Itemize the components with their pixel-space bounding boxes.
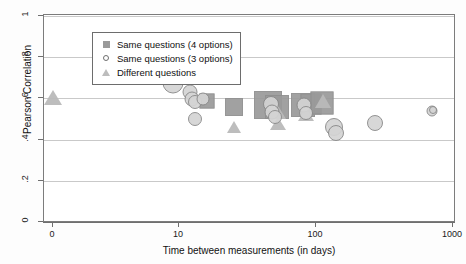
gridline	[44, 98, 454, 99]
legend-item-0: Same questions (4 options)	[99, 37, 233, 51]
y-tick-mark	[38, 221, 43, 222]
y-tick-mark	[38, 139, 43, 140]
legend-label: Same questions (3 options)	[117, 53, 233, 64]
triangle-data-point	[315, 94, 331, 108]
circle-data-point	[268, 110, 282, 124]
plot-area: Same questions (4 options) Same question…	[43, 14, 455, 222]
x-tick-label: 1000	[432, 229, 466, 239]
legend-item-2: Different questions	[99, 65, 233, 79]
square-marker-icon	[99, 41, 113, 48]
x-tick-mark	[452, 222, 453, 227]
triangle-data-point	[44, 90, 62, 105]
y-tick-mark	[38, 56, 43, 57]
x-tick-mark	[52, 222, 53, 227]
x-tick-mark	[178, 222, 179, 227]
chart-legend: Same questions (4 options) Same question…	[92, 32, 241, 85]
x-axis-label: Time between measurements (in days)	[43, 245, 455, 256]
circle-data-point	[197, 93, 210, 106]
y-tick-mark	[38, 15, 43, 16]
x-axis-line	[43, 222, 455, 223]
y-tick-mark	[38, 97, 43, 98]
y-tick-label: 0	[20, 209, 30, 231]
square-data-point	[225, 98, 243, 116]
y-axis-label: Pearson Correlation	[22, 15, 33, 165]
gridline	[44, 140, 454, 141]
circle-data-point	[188, 112, 202, 126]
circle-marker-icon	[99, 55, 113, 61]
legend-label: Different questions	[117, 67, 196, 78]
circle-data-point	[429, 106, 437, 114]
gridline	[44, 181, 454, 182]
circle-data-point	[328, 125, 344, 141]
legend-label: Same questions (4 options)	[117, 39, 233, 50]
gridline	[44, 16, 454, 17]
x-tick-label: 10	[158, 229, 198, 239]
circle-data-point	[299, 106, 313, 120]
legend-item-1: Same questions (3 options)	[99, 51, 233, 65]
triangle-marker-icon	[99, 69, 113, 76]
x-tick-mark	[315, 222, 316, 227]
chart-figure: Same questions (4 options) Same question…	[0, 0, 466, 264]
triangle-data-point	[227, 121, 241, 133]
y-tick-label: .2	[20, 168, 30, 190]
x-tick-label: 100	[295, 229, 335, 239]
x-tick-label: 0	[32, 229, 72, 239]
circle-data-point	[367, 115, 383, 131]
y-tick-mark	[38, 180, 43, 181]
